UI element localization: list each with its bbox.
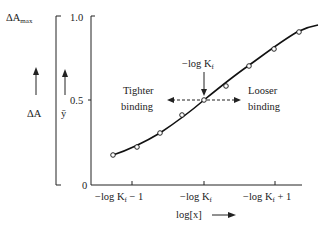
midpoint-label: −log Kf [182,58,215,71]
arrowhead-icon [33,67,39,75]
tighter-label-2: binding [121,101,154,112]
x-tick-plus1: −log Kf + 1 [243,191,291,204]
y-tick-05: 0.5 [70,95,83,106]
y-bar-label: ȳ [61,108,67,119]
delta-a-label: ΔA [27,108,42,119]
x-tick-minus1: −log Kf − 1 [95,191,143,204]
arrowhead-icon [62,69,68,77]
x-axis-label: log[x] [176,209,202,220]
looser-label-2: binding [248,101,281,112]
tighter-label-1: Tighter [123,85,154,96]
left-arrow-icon [167,97,174,103]
right-arrow-icon [234,97,241,103]
y-tick-1: 1.0 [70,12,83,23]
delta-a-bracket [56,16,61,185]
y-tick-0: 0 [82,180,87,191]
binding-curve-chart: ΔAmax ΔA ȳ 1.0 0.5 0 −log Kf − 1 −log Kf… [0,0,320,227]
looser-label-1: Looser [248,85,278,96]
delta-a-max-label: ΔAmax [6,12,33,25]
x-tick-0: −log Kf [180,191,213,204]
